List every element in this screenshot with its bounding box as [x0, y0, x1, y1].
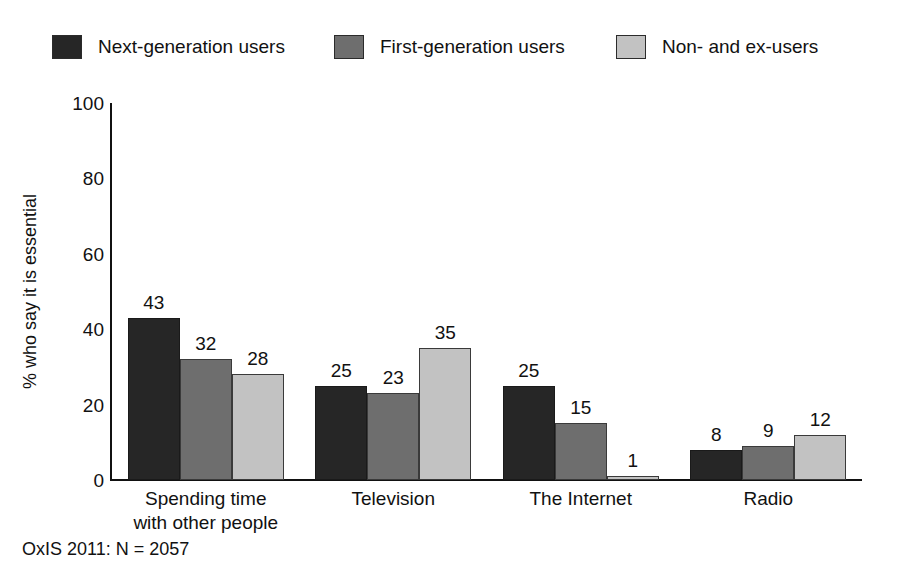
bar[interactable] — [742, 446, 794, 480]
bar-slot: 15 — [555, 103, 607, 480]
chart-footnote: OxIS 2011: N = 2057 — [22, 538, 189, 560]
bar[interactable] — [367, 393, 419, 480]
bar[interactable] — [128, 318, 180, 480]
x-axis-tick-label: Radio — [675, 487, 863, 511]
bar-slot: 8 — [690, 103, 742, 480]
x-axis-tick-label: Television — [300, 487, 488, 511]
bar-slot: 23 — [367, 103, 419, 480]
bar[interactable] — [419, 348, 471, 480]
bar-value-label: 23 — [383, 368, 404, 387]
bar-value-label: 8 — [711, 425, 722, 444]
plot-area: 433228252335251518912 — [112, 103, 862, 480]
x-axis-tick-label-line: Radio — [743, 488, 793, 509]
bar[interactable] — [232, 374, 284, 480]
bar[interactable] — [315, 386, 367, 480]
y-axis-tick-label: 80 — [46, 169, 104, 188]
y-axis-tick-labels: 100806040200 — [44, 0, 104, 584]
y-axis-tick-label: 60 — [46, 245, 104, 264]
x-axis-tick-label: Spending timewith other people — [112, 487, 300, 535]
bar-slot: 43 — [128, 103, 180, 480]
x-axis-tick-label: The Internet — [487, 487, 675, 511]
bar-value-label: 28 — [247, 349, 268, 368]
bar-slot: 25 — [503, 103, 555, 480]
x-axis-tick-labels: Spending timewith other peopleTelevision… — [112, 487, 862, 547]
bar-value-label: 43 — [143, 293, 164, 312]
x-axis-tick-label-line: Spending time — [145, 488, 266, 509]
bar-value-label: 25 — [518, 361, 539, 380]
bar-value-label: 32 — [195, 334, 216, 353]
bar-slot: 1 — [607, 103, 659, 480]
bar-slot: 12 — [794, 103, 846, 480]
bar-group: 8912 — [690, 103, 846, 480]
bar[interactable] — [503, 386, 555, 480]
bar-group: 25151 — [503, 103, 659, 480]
x-axis-tick-label-line: with other people — [112, 511, 300, 535]
bar-value-label: 9 — [763, 421, 774, 440]
y-axis-tick-label: 0 — [46, 471, 104, 490]
y-axis-tick-label: 40 — [46, 320, 104, 339]
bar-slot: 32 — [180, 103, 232, 480]
bar-slot: 35 — [419, 103, 471, 480]
bar-value-label: 12 — [810, 410, 831, 429]
x-axis-tick-label-line: The Internet — [530, 488, 632, 509]
bar-value-label: 15 — [570, 398, 591, 417]
bar-slot: 28 — [232, 103, 284, 480]
x-axis-tick-label-line: Television — [352, 488, 435, 509]
bar-group: 433228 — [128, 103, 284, 480]
bar[interactable] — [555, 423, 607, 480]
bar-value-label: 1 — [627, 451, 638, 470]
y-axis-title: % who say it is essential — [18, 100, 44, 482]
bar-slot: 9 — [742, 103, 794, 480]
bar[interactable] — [607, 476, 659, 480]
bar[interactable] — [180, 359, 232, 480]
bar-value-label: 25 — [331, 361, 352, 380]
y-axis-title-text: % who say it is essential — [21, 193, 42, 388]
bar[interactable] — [690, 450, 742, 480]
bar-group: 252335 — [315, 103, 471, 480]
y-axis-tick-label: 20 — [46, 396, 104, 415]
bar[interactable] — [794, 435, 846, 480]
bar-chart: % who say it is essential 100806040200 4… — [0, 0, 902, 584]
bar-value-label: 35 — [435, 323, 456, 342]
y-axis-tick-label: 100 — [46, 94, 104, 113]
bar-slot: 25 — [315, 103, 367, 480]
